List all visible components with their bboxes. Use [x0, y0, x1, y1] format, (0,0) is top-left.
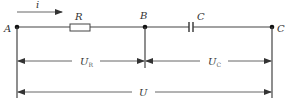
resistor-symbol — [70, 24, 90, 31]
voltage-ur-label: UR — [80, 56, 93, 68]
current-label: i — [36, 0, 39, 10]
rc-circuit-diagram: i R C A B C UR UC U — [0, 0, 291, 109]
node-b-label: B — [139, 10, 147, 21]
capacitor-label: C — [197, 11, 205, 22]
node-a-label: A — [3, 23, 11, 34]
voltage-u-label: U — [139, 87, 148, 98]
voltage-uc-label: UC — [208, 56, 221, 68]
capacitor-symbol — [189, 22, 193, 32]
resistor-label: R — [74, 11, 83, 22]
node-c-label: C — [277, 23, 285, 34]
